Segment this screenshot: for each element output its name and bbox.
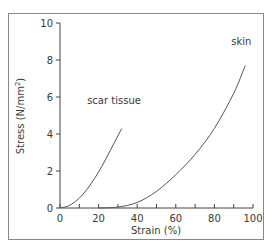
skin-label: skin <box>231 36 251 47</box>
y-tick-label: 6 <box>47 92 53 103</box>
y-tick-label: 4 <box>47 129 53 140</box>
series-group: scar tissueskin <box>60 36 251 208</box>
y-axis-title: Stress (N/mm2) <box>14 78 26 155</box>
y-tick-label: 2 <box>47 166 53 177</box>
x-tick-label: 80 <box>208 213 221 224</box>
axes: 0246810020406080100 <box>40 18 262 225</box>
skin-curve <box>99 66 246 208</box>
x-tick-label: 40 <box>131 213 144 224</box>
y-tick-label: 0 <box>47 203 53 214</box>
scar-tissue-curve <box>60 128 122 208</box>
x-tick-label: 0 <box>57 213 63 224</box>
x-tick-label: 100 <box>243 213 262 224</box>
stress-strain-chart: 0246810020406080100 scar tissueskin Stra… <box>0 0 272 252</box>
y-tick-label: 10 <box>40 18 53 29</box>
y-tick-label: 8 <box>47 55 53 66</box>
x-axis-title: Strain (%) <box>131 225 181 236</box>
x-tick-label: 60 <box>169 213 182 224</box>
x-tick-label: 20 <box>92 213 105 224</box>
scar-tissue-label: scar tissue <box>87 95 141 106</box>
